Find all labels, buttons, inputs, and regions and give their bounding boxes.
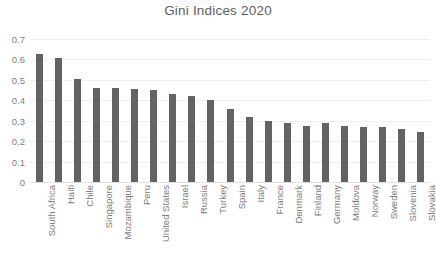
bar[interactable] xyxy=(74,79,81,182)
x-axis-tick-label: Israel xyxy=(180,185,190,208)
bar[interactable] xyxy=(55,58,62,182)
x-axis-tick: Singapore xyxy=(101,185,111,228)
y-axis-tick: 0.5 xyxy=(12,74,25,85)
x-axis-tick: Italy xyxy=(253,185,263,202)
x-axis-tick: Haiti xyxy=(63,185,73,204)
x-axis-tick: Chile xyxy=(82,185,92,207)
x-axis-tick: France xyxy=(272,185,282,215)
bar[interactable] xyxy=(246,117,253,182)
y-axis-tick: 0.4 xyxy=(12,95,25,106)
x-axis-tick-label: Sweden xyxy=(389,185,399,219)
x-axis-tick-label: Singapore xyxy=(104,185,114,228)
bars-container xyxy=(30,39,430,182)
x-axis-tick-label: Peru xyxy=(142,185,152,205)
x-axis-tick: Slovenia xyxy=(405,185,415,221)
bar[interactable] xyxy=(284,123,291,182)
chart-title: Gini Indices 2020 xyxy=(0,3,436,18)
x-axis-tick: Peru xyxy=(139,185,149,205)
bar[interactable] xyxy=(303,126,310,182)
x-axis-tick-label: Finland xyxy=(313,185,323,216)
x-axis-tick: Slovakia xyxy=(424,185,434,221)
x-axis-tick-labels: South AfricaHaitiChileSingaporeMozambiqu… xyxy=(30,185,430,263)
bar[interactable] xyxy=(93,88,100,182)
x-axis-tick: Spain xyxy=(234,185,244,209)
x-axis-tick-label: Chile xyxy=(85,185,95,207)
x-axis-tick: Russia xyxy=(196,185,206,214)
x-axis-tick: United States xyxy=(158,185,168,242)
bar[interactable] xyxy=(265,121,272,182)
x-axis-tick-label: Denmark xyxy=(294,185,304,224)
x-axis-tick-label: United States xyxy=(161,185,171,242)
x-axis-tick: Israel xyxy=(177,185,187,208)
x-axis-tick-label: Slovakia xyxy=(427,185,436,221)
bar[interactable] xyxy=(169,94,176,182)
x-axis-tick-label: Mozambique xyxy=(123,185,133,239)
x-axis-tick-label: Haiti xyxy=(66,185,76,204)
y-axis-tick: 0 xyxy=(20,177,25,188)
bar[interactable] xyxy=(207,100,214,182)
y-axis-tick: 0.7 xyxy=(12,34,25,45)
bar[interactable] xyxy=(398,129,405,182)
x-axis-tick: Moldova xyxy=(348,185,358,221)
x-axis-tick: Turkey xyxy=(215,185,225,214)
plot-area: 00.10.20.30.40.50.60.7 xyxy=(30,39,430,182)
bar[interactable] xyxy=(131,89,138,182)
bar[interactable] xyxy=(227,109,234,182)
y-axis-tick: 0.6 xyxy=(12,54,25,65)
x-axis-tick: Norway xyxy=(367,185,377,217)
x-axis-tick-label: Italy xyxy=(256,185,266,202)
x-axis-tick: Sweden xyxy=(386,185,396,219)
x-axis-tick-label: Germany xyxy=(332,185,342,224)
x-axis-tick: South Africa xyxy=(44,185,54,236)
x-axis-tick: Finland xyxy=(310,185,320,216)
bar[interactable] xyxy=(112,88,119,182)
bar[interactable] xyxy=(379,127,386,182)
x-axis-tick-label: Moldova xyxy=(351,185,361,221)
bar[interactable] xyxy=(150,90,157,182)
x-axis-tick-label: Russia xyxy=(199,185,209,214)
y-axis-tick: 0.3 xyxy=(12,115,25,126)
gridline xyxy=(30,182,430,183)
x-axis-tick-label: South Africa xyxy=(47,185,57,236)
x-axis-tick-label: Norway xyxy=(370,185,380,217)
x-axis-tick-label: Slovenia xyxy=(408,185,418,221)
bar[interactable] xyxy=(360,127,367,182)
x-axis-tick: Mozambique xyxy=(120,185,130,239)
x-axis-tick: Germany xyxy=(329,185,339,224)
bar[interactable] xyxy=(417,132,424,182)
gini-indices-bar-chart: Gini Indices 2020 00.10.20.30.40.50.60.7… xyxy=(0,0,436,263)
y-axis-tick: 0.1 xyxy=(12,156,25,167)
bar[interactable] xyxy=(36,54,43,182)
bar[interactable] xyxy=(322,123,329,182)
x-axis-tick-label: Spain xyxy=(237,185,247,209)
bar[interactable] xyxy=(188,96,195,182)
y-axis-tick: 0.2 xyxy=(12,136,25,147)
x-axis-tick-label: Turkey xyxy=(218,185,228,214)
x-axis-tick-label: France xyxy=(275,185,285,215)
x-axis-tick: Denmark xyxy=(291,185,301,224)
bar[interactable] xyxy=(341,126,348,182)
